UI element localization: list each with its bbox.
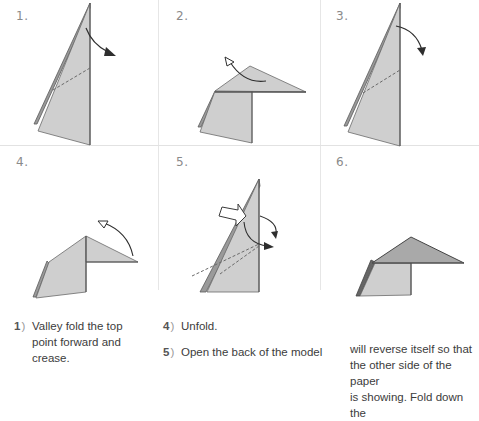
instruction-step-4: 4) Unfold. xyxy=(163,318,323,334)
origami-result-diagram xyxy=(320,146,479,292)
step-5-diagram: 5. xyxy=(160,146,320,292)
origami-folded-diagram xyxy=(160,0,320,146)
instruction-step-5: 5) Open the back of the model xyxy=(163,344,323,360)
instructions-column-1: 1) Valley fold the top point forward and… xyxy=(14,318,144,376)
diagram-grid: 1. 2. 3. xyxy=(0,0,479,296)
step-6-diagram: 6. xyxy=(320,146,479,292)
origami-kite-diagram xyxy=(320,0,479,146)
instruction-text: Unfold. xyxy=(181,318,323,334)
origami-folded-diagram xyxy=(0,146,160,292)
origami-kite-diagram xyxy=(0,0,160,146)
step-4-diagram: 4. xyxy=(0,146,160,292)
step-number: 4 xyxy=(163,320,169,332)
instruction-text: Open the back of the model xyxy=(181,344,323,360)
step-number: 1 xyxy=(14,320,20,332)
step-number: 5 xyxy=(163,346,169,358)
step-2-diagram: 2. xyxy=(160,0,320,146)
instructions-column-2: 4) Unfold. 5) Open the back of the model xyxy=(163,318,323,370)
step-1-diagram: 1. xyxy=(0,0,160,146)
instruction-text: Valley fold the top point forward and cr… xyxy=(32,318,144,366)
instructions-column-3: will reverse itself so that the other si… xyxy=(350,341,479,421)
instruction-continuation-line: is showing. Fold down the xyxy=(350,389,479,421)
step-3-diagram: 3. xyxy=(320,0,479,146)
instruction-step-1: 1) Valley fold the top point forward and… xyxy=(14,318,144,366)
instruction-continuation-line: will reverse itself so that xyxy=(350,341,479,357)
instruction-continuation-line: the other side of the paper xyxy=(350,357,479,389)
origami-kite-diagram xyxy=(160,146,320,292)
